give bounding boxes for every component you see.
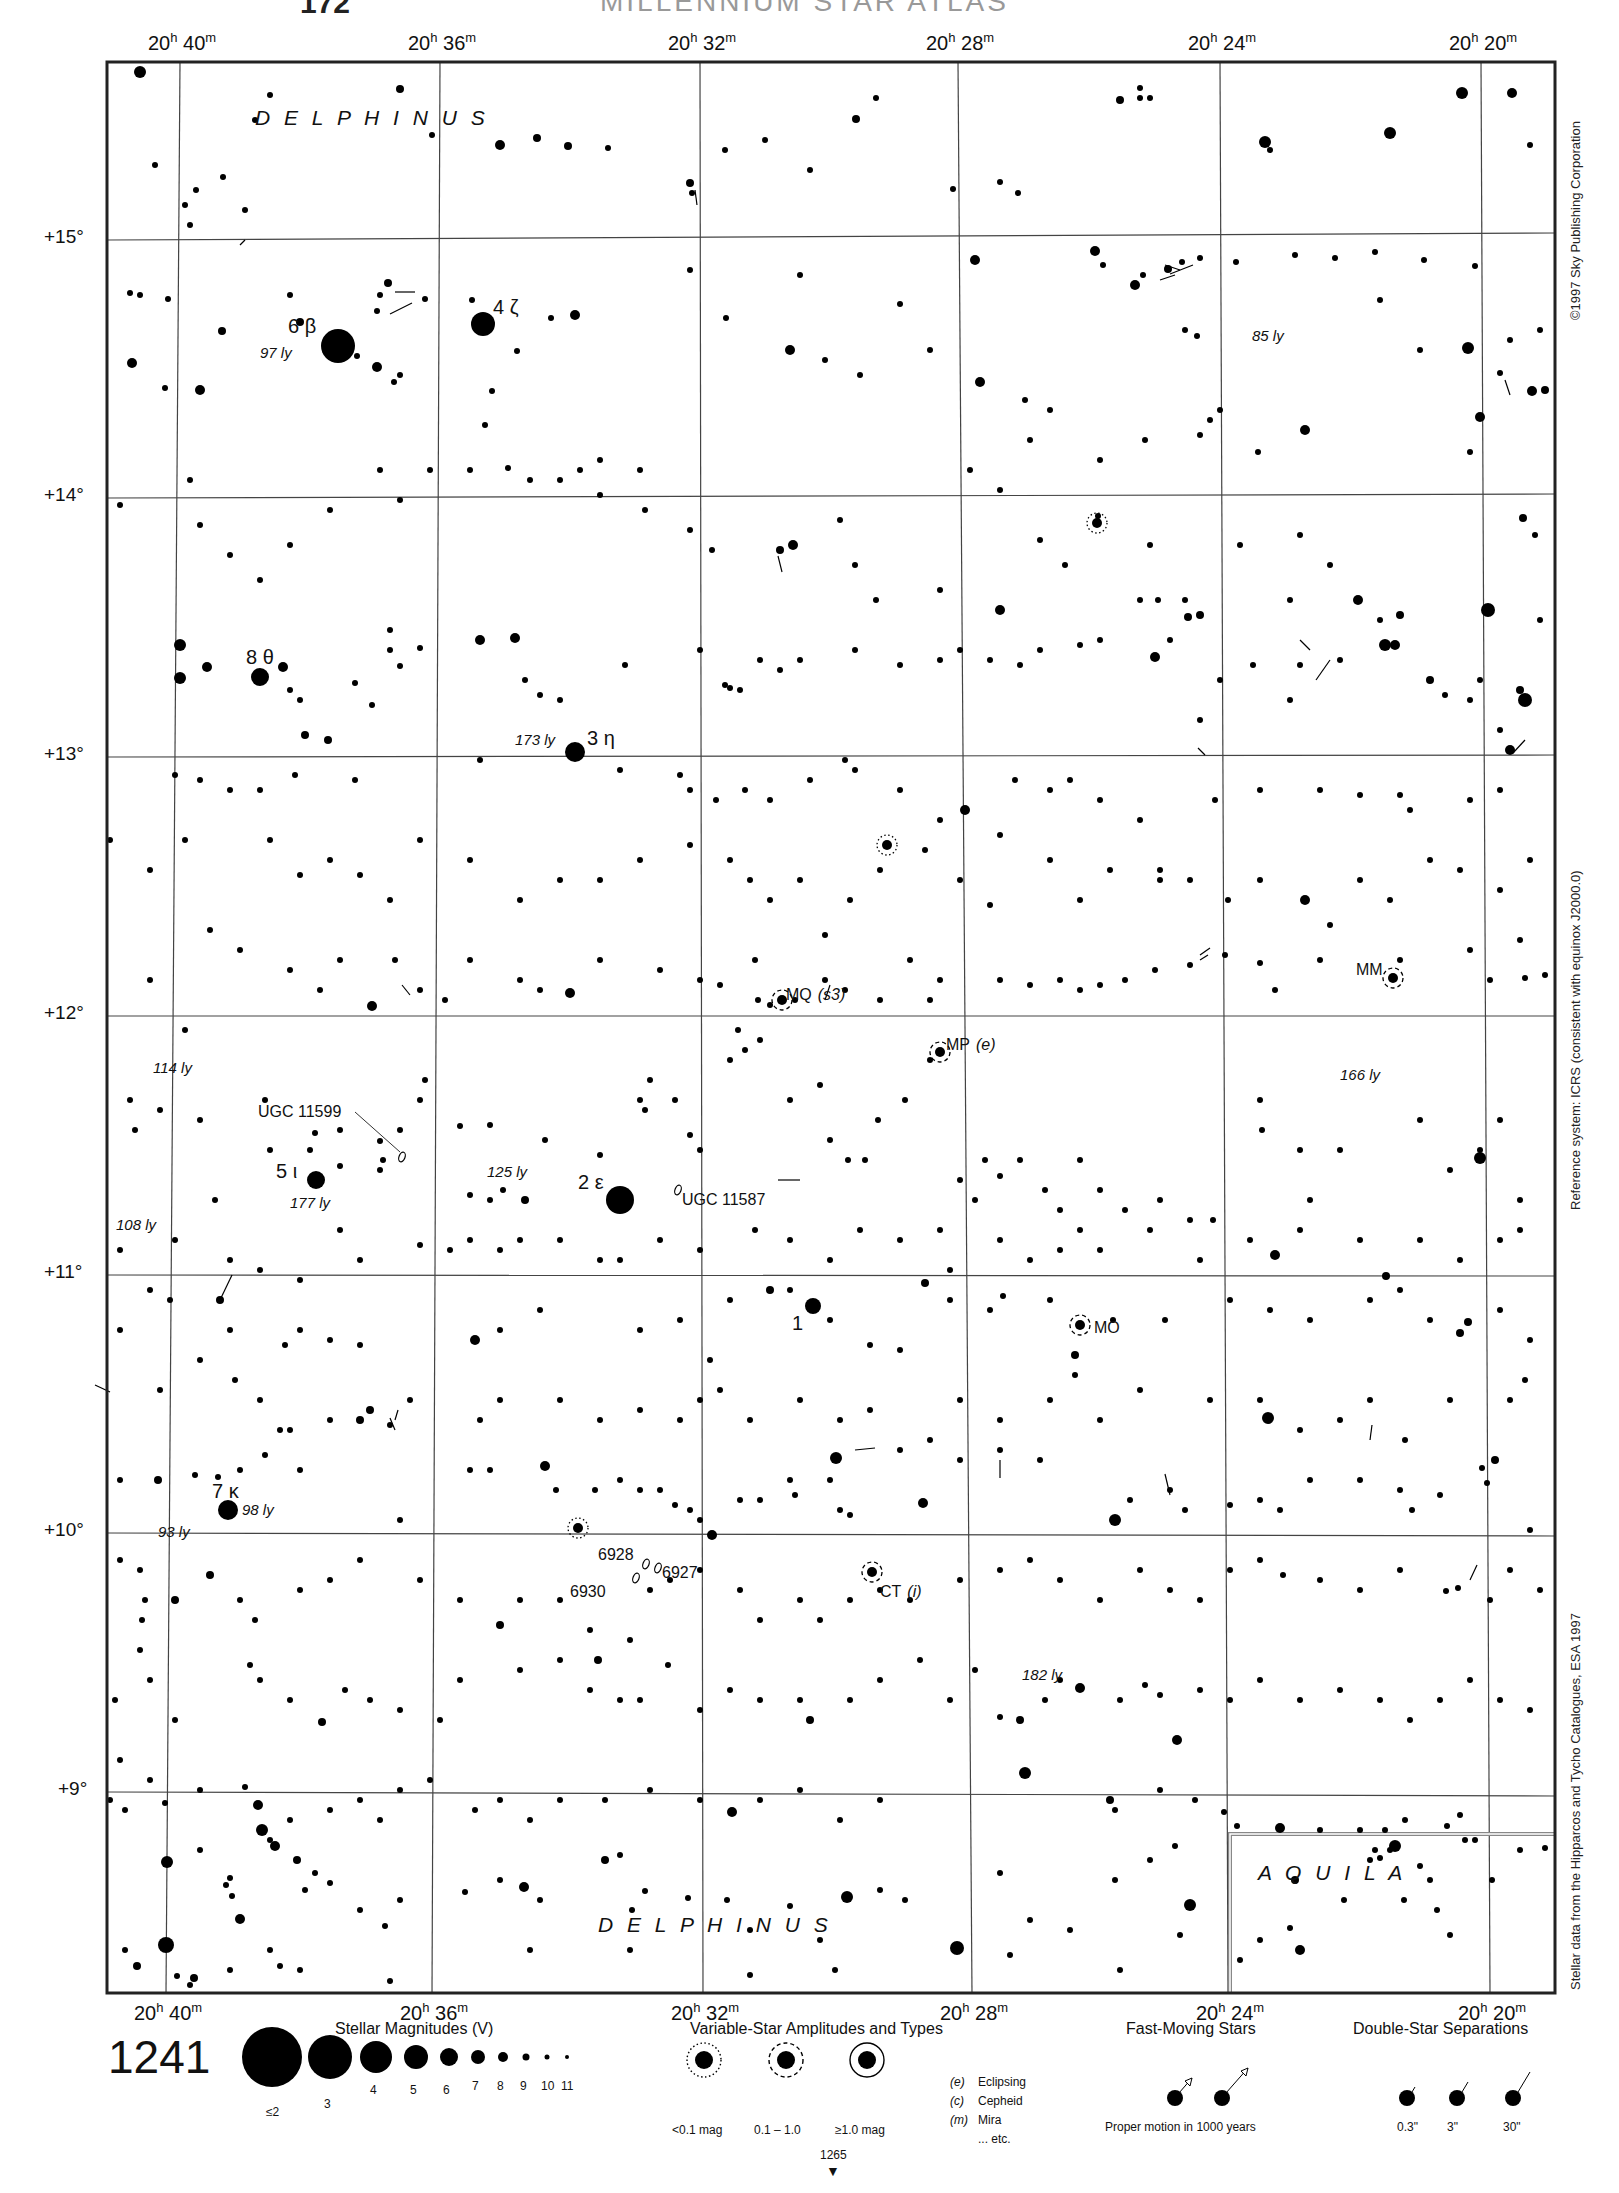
star bbox=[637, 857, 643, 863]
star bbox=[257, 1397, 263, 1403]
star bbox=[357, 1797, 363, 1803]
constellation-label: D E L P H I N U S bbox=[598, 1913, 832, 1936]
star bbox=[1037, 537, 1043, 543]
star bbox=[1259, 1127, 1265, 1133]
star bbox=[605, 145, 611, 151]
star bbox=[787, 1903, 793, 1909]
magnitude-label: 3 bbox=[324, 2097, 331, 2111]
star bbox=[842, 757, 848, 763]
star bbox=[1097, 1417, 1103, 1423]
star bbox=[1187, 1217, 1193, 1223]
star bbox=[857, 372, 863, 378]
star bbox=[1042, 1697, 1048, 1703]
star bbox=[1157, 867, 1163, 873]
star bbox=[1007, 1952, 1013, 1958]
star bbox=[747, 877, 753, 883]
star bbox=[223, 1882, 229, 1888]
star bbox=[617, 1257, 623, 1263]
star bbox=[469, 297, 475, 303]
star bbox=[972, 1667, 978, 1673]
star bbox=[927, 1437, 933, 1443]
star bbox=[1397, 1287, 1403, 1293]
variable-type-entry: (m)Mira bbox=[950, 2113, 1001, 2127]
star bbox=[1487, 977, 1493, 983]
star bbox=[642, 1107, 648, 1113]
motion-vector bbox=[1505, 380, 1510, 395]
star bbox=[987, 1307, 993, 1313]
magnitude-sample bbox=[242, 2027, 302, 2087]
adjacent-chart-number[interactable]: 1265 bbox=[820, 2148, 847, 2162]
star bbox=[1507, 1397, 1513, 1403]
star bbox=[127, 290, 133, 296]
star bbox=[1179, 259, 1185, 265]
star bbox=[142, 1597, 148, 1603]
star bbox=[950, 1941, 964, 1955]
star bbox=[1357, 1587, 1363, 1593]
star bbox=[687, 527, 693, 533]
star bbox=[1297, 1697, 1303, 1703]
star bbox=[787, 1287, 793, 1293]
star bbox=[1337, 1417, 1343, 1423]
star bbox=[755, 997, 761, 1003]
star bbox=[1162, 1317, 1168, 1323]
star bbox=[1497, 1697, 1503, 1703]
star bbox=[1474, 1152, 1486, 1164]
star bbox=[489, 388, 495, 394]
star bbox=[117, 1477, 123, 1483]
star bbox=[1097, 1597, 1103, 1603]
star bbox=[1122, 1207, 1128, 1213]
star bbox=[709, 547, 715, 553]
star-designation: 1 bbox=[792, 1312, 803, 1334]
star bbox=[1142, 437, 1148, 443]
star bbox=[1057, 977, 1063, 983]
star bbox=[152, 162, 158, 168]
star bbox=[957, 877, 963, 883]
star bbox=[697, 977, 703, 983]
distance-label: 114 ly bbox=[153, 1059, 193, 1076]
star bbox=[1212, 797, 1218, 803]
star bbox=[1233, 259, 1239, 265]
star bbox=[1077, 642, 1083, 648]
star bbox=[387, 1978, 393, 1984]
star bbox=[327, 1577, 333, 1583]
star bbox=[1257, 1397, 1263, 1403]
variable-type-entry: (c)Cepheid bbox=[950, 2094, 1023, 2108]
ra-tick-label: 20h 28m bbox=[926, 30, 994, 55]
star bbox=[747, 1972, 753, 1978]
star bbox=[367, 1001, 377, 1011]
star bbox=[997, 179, 1003, 185]
star bbox=[397, 372, 403, 378]
star bbox=[297, 1967, 303, 1973]
star bbox=[1267, 1307, 1273, 1313]
star bbox=[1100, 262, 1106, 268]
star bbox=[356, 1416, 364, 1424]
star bbox=[1300, 425, 1310, 435]
star bbox=[1057, 1247, 1063, 1253]
variable-star bbox=[573, 1523, 583, 1533]
star bbox=[697, 1707, 703, 1713]
star bbox=[1497, 370, 1503, 376]
star bbox=[377, 1167, 383, 1173]
star bbox=[227, 1967, 233, 1973]
star bbox=[997, 977, 1003, 983]
star bbox=[229, 1893, 235, 1899]
chevron-down-icon[interactable]: ▼ bbox=[826, 2163, 840, 2179]
star bbox=[369, 702, 375, 708]
star bbox=[312, 1870, 318, 1876]
star bbox=[542, 1137, 548, 1143]
star bbox=[927, 997, 933, 1003]
star bbox=[133, 1962, 141, 1970]
star bbox=[232, 1377, 238, 1383]
star bbox=[257, 1677, 263, 1683]
magnitude-sample bbox=[308, 2035, 352, 2079]
star bbox=[767, 897, 773, 903]
star bbox=[1262, 1412, 1274, 1424]
star bbox=[1097, 982, 1103, 988]
variable-star-label: CT(i) bbox=[880, 1583, 922, 1600]
star bbox=[1137, 817, 1143, 823]
star bbox=[1467, 697, 1473, 703]
star bbox=[1542, 1845, 1548, 1851]
star bbox=[377, 292, 383, 298]
star bbox=[1447, 1932, 1453, 1938]
star bbox=[372, 362, 382, 372]
